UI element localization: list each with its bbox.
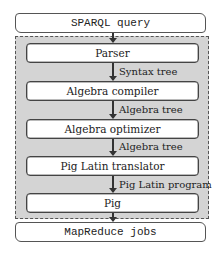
stage-label: Pig Latin translator: [60, 160, 164, 172]
edge-label-pig-latin-program: Pig Latin program: [119, 179, 212, 190]
arrow-optimizer-to-translator: [112, 139, 114, 155]
edge-label-syntax-tree: Syntax tree: [119, 66, 177, 77]
stage-label: Pig: [104, 197, 121, 209]
output-box-mapreduce-jobs: MapReduce jobs: [15, 222, 206, 242]
arrow-input-to-parser: [112, 33, 114, 42]
arrow-compiler-to-optimizer: [112, 101, 114, 118]
stage-label: Algebra compiler: [66, 85, 158, 97]
stage-algebra-compiler: Algebra compiler: [26, 81, 199, 101]
stage-pig-latin-translator: Pig Latin translator: [26, 156, 199, 176]
edge-label-algebra-tree-2: Algebra tree: [119, 141, 183, 152]
stage-pig: Pig: [26, 193, 199, 213]
stage-label: Algebra optimizer: [65, 123, 161, 135]
stage-algebra-optimizer: Algebra optimizer: [26, 119, 199, 139]
stage-parser: Parser: [26, 43, 199, 63]
arrow-pig-to-output: [112, 213, 114, 221]
output-label: MapReduce jobs: [64, 226, 156, 238]
arrow-translator-to-pig: [112, 176, 114, 192]
stage-label: Parser: [95, 47, 130, 59]
input-box-sparql-query: SPARQL query: [15, 13, 206, 33]
edge-label-algebra-tree-1: Algebra tree: [119, 104, 183, 115]
arrow-parser-to-compiler: [112, 63, 114, 80]
input-label: SPARQL query: [71, 17, 150, 29]
